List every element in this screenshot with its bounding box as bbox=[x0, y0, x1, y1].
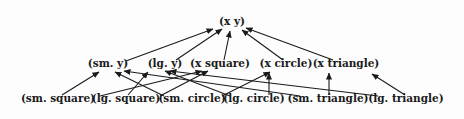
edge-x-square-to-xy bbox=[224, 31, 230, 60]
node-x-triangle: (x triangle) bbox=[313, 57, 380, 69]
lattice-diagram: (x y)(sm. y)(lg. y)(x square)(x circle)(… bbox=[0, 0, 464, 119]
node-sm-square: (sm. square) bbox=[21, 92, 95, 104]
node-lg-y: (lg. y) bbox=[148, 57, 183, 69]
node-lg-circle: (lg. circle) bbox=[223, 92, 285, 104]
lattice-svg: (x y)(sm. y)(lg. y)(x square)(x circle)(… bbox=[0, 0, 464, 119]
node-xy: (x y) bbox=[219, 15, 245, 27]
edge-x-triangle-to-xy bbox=[246, 28, 333, 60]
node-lg-square: (lg. square) bbox=[92, 92, 160, 104]
node-sm-circle: (sm. circle) bbox=[158, 92, 225, 104]
node-lg-triangle: (lg. triangle) bbox=[368, 92, 443, 104]
node-x-circle: (x circle) bbox=[260, 57, 313, 69]
node-sm-y: (sm. y) bbox=[88, 57, 128, 69]
node-x-square: (x square) bbox=[190, 57, 250, 69]
node-sm-triangle: (sm. triangle) bbox=[287, 92, 368, 104]
